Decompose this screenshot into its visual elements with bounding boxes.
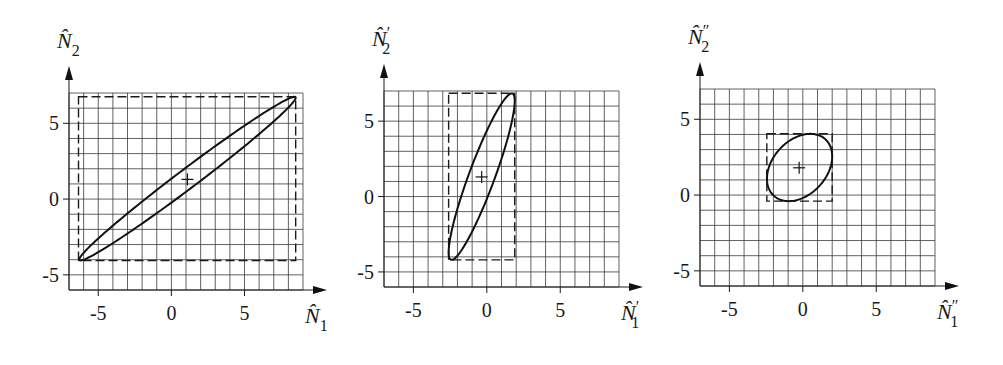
panel-single-prime-axes: -505-505N̂′2N̂′1	[357, 24, 643, 331]
y-tick-label: 5	[680, 108, 690, 130]
x-axis-arrow-icon	[629, 283, 643, 291]
y-tick-label: -5	[673, 260, 690, 282]
x-axis-title: N̂″1	[936, 297, 958, 330]
y-axis-arrow-icon	[380, 64, 388, 78]
x-tick-label: 5	[871, 298, 881, 320]
x-axis-title: N̂1	[304, 303, 328, 334]
x-tick-label: 5	[240, 302, 250, 324]
grid	[384, 91, 619, 287]
y-tick-label: 0	[364, 186, 374, 208]
x-tick-label: 0	[798, 298, 808, 320]
x-tick-label: -5	[721, 298, 738, 320]
x-tick-label: -5	[405, 299, 422, 321]
y-tick-label: 5	[364, 110, 374, 132]
axes: -505-505N̂″2N̂″1	[673, 22, 959, 330]
x-tick-label: -5	[90, 302, 107, 324]
panel-double-prime-axes: -505-505N̂″2N̂″1	[673, 22, 959, 330]
axes: -505-505N̂′2N̂′1	[357, 24, 643, 331]
x-tick-label: 0	[166, 302, 176, 324]
y-tick-label: -5	[42, 264, 59, 286]
y-axis-arrow-icon	[696, 62, 704, 76]
figure: -505-505N̂2N̂1 -505-505N̂′2N̂′1 -505-505…	[0, 0, 1003, 365]
y-axis-title: N̂2	[56, 28, 80, 59]
y-tick-label: 0	[680, 184, 690, 206]
y-axis-title: N̂″2	[687, 22, 709, 55]
y-tick-label: -5	[357, 261, 374, 283]
y-tick-label: 0	[49, 188, 59, 210]
x-axis-arrow-icon	[313, 286, 327, 294]
panel-original-axes: -505-505N̂2N̂1	[42, 28, 327, 334]
axes: -505-505N̂2N̂1	[42, 28, 327, 334]
y-axis-arrow-icon	[65, 66, 73, 80]
x-axis-title: N̂′1	[620, 298, 639, 331]
x-axis-arrow-icon	[945, 282, 959, 290]
x-tick-label: 5	[555, 299, 565, 321]
x-tick-label: 0	[482, 299, 492, 321]
y-tick-label: 5	[49, 112, 59, 134]
y-axis-title: N̂′2	[371, 24, 390, 57]
